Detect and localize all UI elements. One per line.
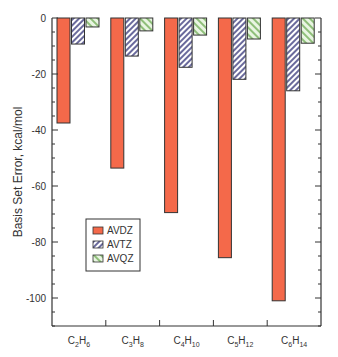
legend-label-avtz: AVTZ <box>107 239 132 250</box>
bar-avdz-c5h12 <box>218 18 231 258</box>
y-tick-label: 0 <box>40 13 46 24</box>
bar-avtz-c3h8 <box>125 18 138 56</box>
x-tick-label: C2H6 <box>68 335 90 348</box>
bar-avqz-c3h8 <box>140 18 153 31</box>
x-tick-label: C3H8 <box>122 335 144 348</box>
bar-avtz-c2h6 <box>72 18 85 44</box>
bar-avdz-c3h8 <box>111 18 124 168</box>
bar-avqz-c6h14 <box>301 18 314 43</box>
legend-label-avqz: AVQZ <box>107 253 133 264</box>
bar-avdz-c2h6 <box>57 18 70 123</box>
legend-label-avdz: AVDZ <box>107 225 133 236</box>
bar-avqz-c4h10 <box>194 18 207 35</box>
y-tick-label: -80 <box>32 237 47 248</box>
y-axis-label: Basis Set Error, kcal/mol <box>11 107 25 238</box>
x-tick-label: C4H10 <box>173 335 199 348</box>
bar-avqz-c2h6 <box>86 18 99 27</box>
legend-swatch-avtz <box>93 241 103 248</box>
x-tick-label: C5H12 <box>227 335 253 348</box>
bar-avtz-c5h12 <box>233 18 246 79</box>
bar-avqz-c5h12 <box>247 18 260 39</box>
bar-avdz-c6h14 <box>272 18 285 301</box>
bar-avtz-c6h14 <box>287 18 300 91</box>
x-tick-label: C6H14 <box>281 335 307 348</box>
y-tick-label: -60 <box>32 181 47 192</box>
legend: AVDZAVTZAVQZ <box>86 219 140 271</box>
y-tick-label: -100 <box>26 293 46 304</box>
legend-swatch-avqz <box>93 255 103 262</box>
legend-swatch-avdz <box>93 227 103 234</box>
bar-avtz-c4h10 <box>179 18 192 67</box>
y-tick-label: -20 <box>32 69 47 80</box>
bar-chart: C2H6C3H8C4H10C5H12C6H140-20-40-60-80-100… <box>0 0 338 357</box>
y-tick-label: -40 <box>32 125 47 136</box>
bar-avdz-c4h10 <box>165 18 178 213</box>
